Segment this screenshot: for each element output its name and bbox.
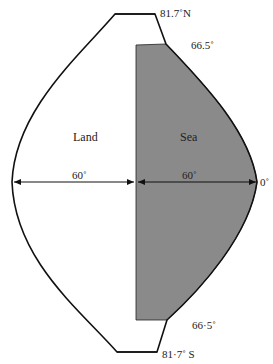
label-81-7-north: 81.7˚N: [160, 8, 191, 19]
label-equator: 0˚: [260, 177, 269, 188]
label-land-width: 60˚: [72, 170, 87, 181]
label-66-5-north: 66.5˚: [191, 40, 214, 51]
diagram-canvas: [0, 0, 273, 364]
label-66-5-south: 66·5˚: [192, 320, 216, 331]
label-land: Land: [73, 131, 98, 143]
label-sea: Sea: [180, 131, 197, 143]
label-81-7-south: 81·7˚ S: [162, 349, 195, 360]
label-sea-width: 60˚: [182, 170, 197, 181]
